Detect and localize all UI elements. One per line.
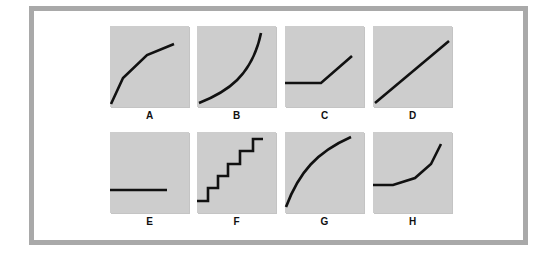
panel-e — [110, 132, 189, 213]
panel-f-label: F — [197, 216, 276, 228]
panel-f — [197, 132, 276, 213]
curve-d-graphic — [373, 26, 452, 107]
panel-a — [110, 26, 189, 107]
panel-h-label: H — [373, 216, 452, 228]
panel-a-label: A — [110, 110, 189, 122]
panel-g-label: G — [285, 216, 364, 228]
curve-b-graphic — [197, 26, 276, 107]
curve-a-graphic — [110, 26, 189, 107]
panel-d — [373, 26, 452, 107]
panel-e-label: E — [110, 216, 189, 228]
panel-c-label: C — [285, 110, 364, 122]
curve-f-graphic — [197, 132, 276, 213]
panel-b — [197, 26, 276, 107]
figure-frame — [29, 6, 528, 245]
panel-d-label: D — [373, 110, 452, 122]
panel-c — [285, 26, 364, 107]
curve-c-graphic — [285, 26, 364, 107]
curve-e-graphic — [110, 132, 189, 213]
curve-h-graphic — [373, 132, 452, 213]
curve-g-graphic — [285, 132, 364, 213]
panel-g — [285, 132, 364, 213]
panel-b-label: B — [197, 110, 276, 122]
panel-h — [373, 132, 452, 213]
